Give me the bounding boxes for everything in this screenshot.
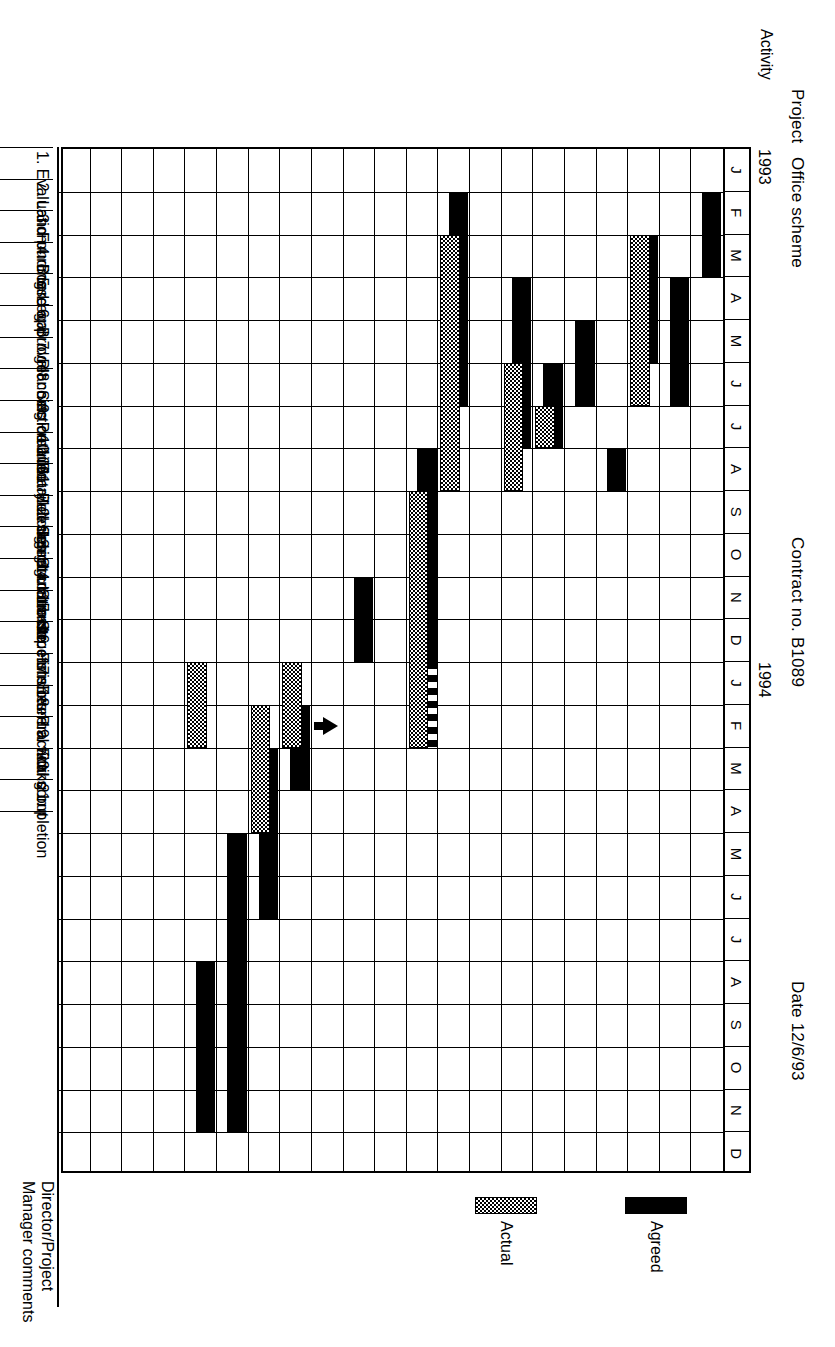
activity-label-divider-11 — [0, 494, 53, 495]
chart-date: Date 12/6/93 — [787, 981, 807, 1081]
activity-label-divider-10 — [0, 463, 53, 464]
grid-vline-22 — [59, 1089, 723, 1090]
activity-label-divider-7 — [0, 368, 53, 369]
activity-label-divider-1 — [0, 178, 53, 179]
activity-label-divider-17 — [0, 684, 53, 685]
grid-vline-20 — [59, 1004, 723, 1005]
gantt-bar-agreed-row-4 — [575, 320, 595, 406]
legend: Agreed Actual — [207, 1197, 687, 1307]
activity-label-divider-0 — [0, 147, 53, 148]
grid-vline-23 — [59, 1132, 723, 1133]
grid-hline-10 — [405, 149, 406, 1171]
grid-vline-12 — [59, 662, 723, 663]
grid-vline-16 — [59, 833, 723, 834]
month-tick-0: J — [723, 149, 749, 192]
activity-label-divider-12 — [0, 526, 53, 527]
year-label-1994: 1994 — [755, 662, 773, 698]
gantt-bar-agreed-row-1 — [669, 277, 689, 405]
grid-vline-19 — [59, 961, 723, 962]
month-tick-22: N — [723, 1089, 749, 1132]
grid-hline-4 — [595, 149, 596, 1171]
grid-vline-3 — [59, 277, 723, 278]
activity-label-divider-15 — [0, 621, 53, 622]
grid-hline-9 — [437, 149, 438, 1171]
gantt-plot-area — [59, 149, 723, 1171]
month-tick-11: D — [723, 619, 749, 662]
grid-vline-14 — [59, 747, 723, 748]
gantt-sheet: Project Office scheme Contract no. B1089… — [23, 29, 813, 1319]
activity-label-divider-21 — [0, 811, 53, 812]
gantt-bar-actual-row-16 — [187, 662, 207, 748]
grid-vline-1 — [59, 191, 723, 192]
year-label-1993: 1993 — [755, 149, 773, 185]
grid-hline-5 — [563, 149, 564, 1171]
month-tick-14: M — [723, 747, 749, 790]
comments-line-2: Manager comments — [19, 1181, 38, 1322]
activity-label-21: 21. — [33, 783, 51, 805]
gantt-bar-actual-row-2 — [630, 234, 650, 405]
gantt-grid: JFMAMJJASONDJFMAMJJASOND — [61, 147, 751, 1173]
grid-hline-16 — [216, 149, 217, 1171]
gantt-bar-agreed-row-15 — [227, 833, 247, 1132]
gantt-bar-actual-row-8 — [440, 234, 460, 491]
month-tick-21: O — [723, 1046, 749, 1089]
grid-vline-9 — [59, 533, 723, 534]
activity-label-20: 20. — [33, 751, 51, 773]
grid-vline-4 — [59, 320, 723, 321]
legend-swatch-agreed — [625, 1197, 687, 1214]
grid-hline-8 — [469, 149, 470, 1171]
grid-vline-2 — [59, 234, 723, 235]
grid-hline-7 — [500, 149, 501, 1171]
project-name: Office scheme — [787, 157, 807, 268]
grid-hline-12 — [342, 149, 343, 1171]
month-tick-3: A — [723, 277, 749, 320]
milestone-arrow-icon — [322, 717, 337, 735]
gantt-bar-actual-row-9 — [408, 491, 428, 748]
comments-line-1: Director/Project — [38, 1181, 57, 1322]
month-tick-9: O — [723, 533, 749, 576]
month-tick-19: A — [723, 961, 749, 1004]
grid-hline-1 — [690, 149, 691, 1171]
grid-vline-5 — [59, 362, 723, 363]
activity-label-divider-6 — [0, 336, 53, 337]
contract-number: Contract no. B1089 — [787, 537, 807, 687]
grid-hline-6 — [532, 149, 533, 1171]
activity-label-divider-13 — [0, 558, 53, 559]
grid-vline-6 — [59, 405, 723, 406]
gantt-bar-agreed-row-11 — [353, 576, 373, 662]
grid-hline-2 — [658, 149, 659, 1171]
grid-hline-17 — [184, 149, 185, 1171]
legend-label-agreed: Agreed — [647, 1221, 665, 1273]
gantt-bar-agreed-row-0 — [701, 191, 721, 277]
month-tick-13: F — [723, 704, 749, 747]
month-tick-10: N — [723, 576, 749, 619]
grid-vline-18 — [59, 918, 723, 919]
grid-hline-18 — [152, 149, 153, 1171]
month-tick-8: S — [723, 491, 749, 534]
activity-column-header: Activity — [757, 29, 775, 80]
grid-vline-21 — [59, 1046, 723, 1047]
legend-label-actual: Actual — [497, 1221, 515, 1265]
grid-hline-19 — [121, 149, 122, 1171]
activity-label-divider-4 — [0, 273, 53, 274]
activity-label-divider-9 — [0, 431, 53, 432]
grid-vline-10 — [59, 576, 723, 577]
gantt-bar-actual-row-13 — [282, 662, 302, 748]
grid-hline-11 — [374, 149, 375, 1171]
grid-hline-20 — [89, 149, 90, 1171]
month-tick-5: J — [723, 362, 749, 405]
milestone-arrow-stem — [313, 722, 322, 730]
activity-label-divider-2 — [0, 210, 53, 211]
activity-label-divider-18 — [0, 716, 53, 717]
month-tick-16: M — [723, 833, 749, 876]
grid-hline-14 — [279, 149, 280, 1171]
month-axis: JFMAMJJASONDJFMAMJJASOND — [723, 149, 749, 1171]
activity-label-divider-19 — [0, 747, 53, 748]
month-tick-15: A — [723, 790, 749, 833]
month-tick-20: S — [723, 1004, 749, 1047]
grid-vline-11 — [59, 619, 723, 620]
chart-baseline — [57, 147, 59, 1307]
activity-label-divider-20 — [0, 779, 53, 780]
project-label: Project — [787, 89, 807, 143]
month-tick-17: J — [723, 875, 749, 918]
